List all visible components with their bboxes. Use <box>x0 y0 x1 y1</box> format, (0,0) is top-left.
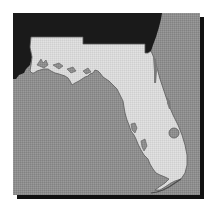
lake-okeechobee <box>169 128 179 138</box>
map-canvas <box>13 13 200 195</box>
florida-map <box>13 13 200 195</box>
